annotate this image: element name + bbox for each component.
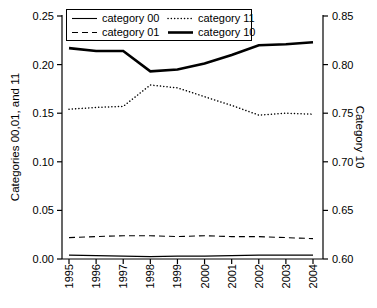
x-tick-label: 2003 xyxy=(280,264,292,288)
y-tick-label-right: 0.75 xyxy=(332,107,353,119)
x-tick-label: 1995 xyxy=(63,264,75,288)
y-tick-label-right: 0.70 xyxy=(332,156,353,168)
y-tick-label-right: 0.60 xyxy=(332,253,353,265)
chart-legend: category 00 category 11 category 01 cate… xyxy=(66,9,252,41)
y-tick-label-right: 0.80 xyxy=(332,59,353,71)
x-tick-label: 1999 xyxy=(171,264,183,288)
legend-line-sample-solid-thin xyxy=(71,16,98,21)
series-line-category-01 xyxy=(69,236,313,239)
chart-plot-area xyxy=(0,0,377,308)
legend-line-sample-solid-thick xyxy=(167,30,194,35)
x-tick-label: 2004 xyxy=(307,264,319,288)
legend-item-category-01: category 01 xyxy=(71,26,167,38)
x-tick-label: 1997 xyxy=(117,264,129,288)
line-chart-figure: 0.250.200.150.100.050.000.850.800.750.70… xyxy=(0,0,377,308)
series-line-category-10 xyxy=(69,42,313,71)
y-tick-label-right: 0.65 xyxy=(332,204,353,216)
legend-line-sample-dotted xyxy=(167,16,194,21)
y-tick-label-left: 0.25 xyxy=(24,10,54,22)
series-line-category-00 xyxy=(69,255,313,257)
y-tick-label-left: 0.20 xyxy=(24,59,54,71)
x-tick-label: 2001 xyxy=(226,264,238,288)
y-tick-label-left: 0.00 xyxy=(24,253,54,265)
x-tick-label: 2000 xyxy=(199,264,211,288)
legend-label: category 11 xyxy=(198,12,255,24)
legend-item-category-00: category 00 xyxy=(71,12,167,24)
series-line-category-11 xyxy=(69,85,313,115)
x-tick-label: 1996 xyxy=(90,264,102,288)
legend-label: category 00 xyxy=(102,12,159,24)
x-tick-label: 1998 xyxy=(144,264,156,288)
legend-label: category 01 xyxy=(102,26,159,38)
right-axis-title: Category 10 xyxy=(354,106,366,169)
legend-item-category-10: category 10 xyxy=(167,26,255,38)
legend-line-sample-dashed xyxy=(71,30,98,35)
y-tick-label-right: 0.85 xyxy=(332,10,353,22)
legend-label: category 10 xyxy=(198,26,255,38)
x-tick-label: 2002 xyxy=(253,264,265,288)
y-tick-label-left: 0.10 xyxy=(24,156,54,168)
y-tick-label-left: 0.15 xyxy=(24,107,54,119)
left-axis-title: Categories 00,01, and 11 xyxy=(9,73,21,201)
y-tick-label-left: 0.05 xyxy=(24,204,54,216)
legend-item-category-11: category 11 xyxy=(167,12,255,24)
